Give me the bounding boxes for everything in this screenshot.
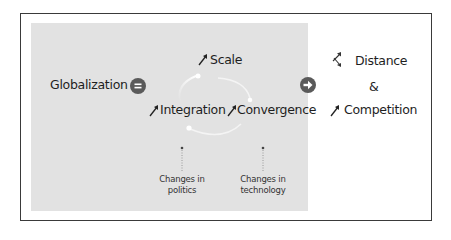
right-arrow-circle-icon <box>300 77 316 93</box>
driver-technology: Changes in technology <box>233 174 293 196</box>
driver-technology-line1: Changes in <box>233 174 293 185</box>
up-and-down-arrow-icon <box>331 52 343 68</box>
competition-label: Competition <box>344 102 417 117</box>
driver-politics-line1: Changes in <box>152 174 212 185</box>
driver-politics-line2: politics <box>152 185 212 196</box>
driver-technology-line2: technology <box>233 185 293 196</box>
up-right-arrow-icon <box>330 105 340 117</box>
driver-politics: Changes in politics <box>152 174 212 196</box>
distance-label: Distance <box>355 53 407 68</box>
right-arrow-glyph <box>300 77 316 93</box>
ampersand-label: & <box>369 79 378 94</box>
